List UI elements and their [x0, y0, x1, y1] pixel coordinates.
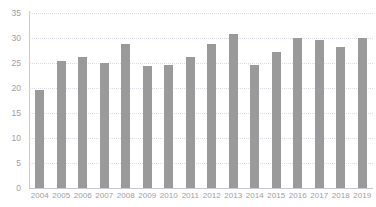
- bar-series: [29, 13, 373, 188]
- bar: [57, 61, 66, 188]
- bar: [78, 57, 87, 188]
- y-tick-label: 15: [0, 109, 21, 118]
- bar: [229, 34, 238, 188]
- chart-title: [0, 0, 376, 2]
- bar: [121, 44, 130, 188]
- x-axis-tick-labels: 2004200520062007200820092010201120122013…: [29, 191, 373, 205]
- y-tick-label: 25: [0, 59, 21, 68]
- y-tick-label: 30: [0, 34, 21, 43]
- x-tick-label: 2019: [348, 191, 376, 201]
- bar: [143, 66, 152, 188]
- bar: [272, 52, 281, 188]
- bar: [35, 90, 44, 188]
- bar: [100, 63, 109, 188]
- y-tick-label: 35: [0, 9, 21, 18]
- axis-baseline: [29, 188, 373, 189]
- y-tick-label: 5: [0, 159, 21, 168]
- bar: [250, 65, 259, 188]
- plot-area: 05101520253035: [29, 13, 373, 188]
- bar: [164, 65, 173, 189]
- bar: [315, 40, 324, 189]
- y-tick-label: 20: [0, 84, 21, 93]
- bar: [186, 57, 195, 188]
- y-tick-label: 0: [0, 184, 21, 193]
- bar: [358, 38, 367, 189]
- bar: [293, 38, 302, 188]
- bar: [336, 47, 345, 188]
- bar-chart: 05101520253035 2004200520062007200820092…: [0, 0, 376, 207]
- bar: [207, 44, 216, 188]
- y-tick-label: 10: [0, 134, 21, 143]
